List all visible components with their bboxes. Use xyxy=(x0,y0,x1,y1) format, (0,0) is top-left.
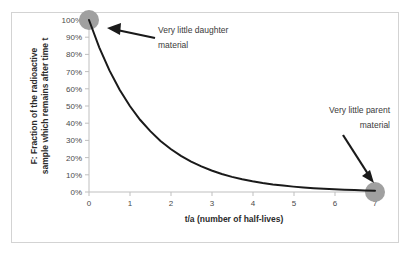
x-tick-label: 4 xyxy=(251,199,256,208)
parent-annotation-line2: material xyxy=(360,120,390,130)
parent-annotation-arrow xyxy=(343,135,374,183)
y-axis-tick-labels: 100% 90% 80% 70% 60% 50% 40% 30% 20% 10%… xyxy=(62,16,82,197)
x-axis-ticks xyxy=(89,192,375,196)
parent-annotation-text: Very little parent material xyxy=(329,105,391,130)
x-tick-label: 5 xyxy=(292,199,297,208)
daughter-annotation-line1: Very little daughter xyxy=(158,25,229,35)
y-tick-label: 80% xyxy=(66,50,82,59)
x-tick-label: 0 xyxy=(87,199,92,208)
y-tick-label: 100% xyxy=(62,16,82,25)
y-tick-label: 70% xyxy=(66,68,82,77)
daughter-annotation-text: Very little daughter material xyxy=(158,25,229,50)
y-tick-label: 10% xyxy=(66,171,82,180)
decay-chart: 100% 90% 80% 70% 60% 50% 40% 30% 20% 10%… xyxy=(0,0,411,257)
y-tick-label: 60% xyxy=(66,85,82,94)
y-tick-label: 0% xyxy=(70,188,82,197)
y-tick-label: 40% xyxy=(66,119,82,128)
y-tick-label: 20% xyxy=(66,154,82,163)
figure-container: 100% 90% 80% 70% 60% 50% 40% 30% 20% 10%… xyxy=(0,0,411,257)
x-tick-label: 1 xyxy=(128,199,133,208)
x-axis-tick-labels: 0 1 2 3 4 5 6 7 xyxy=(87,199,378,208)
y-tick-label: 90% xyxy=(66,33,82,42)
y-tick-label: 50% xyxy=(66,102,82,111)
x-tick-label: 2 xyxy=(169,199,174,208)
daughter-annotation-line2: material xyxy=(158,40,188,50)
y-axis-title: F: Fraction of the radioactive sample wh… xyxy=(29,38,50,175)
y-axis-ticks xyxy=(85,20,89,192)
x-tick-label: 6 xyxy=(333,199,338,208)
y-axis-title-line2: sample which remains after time t xyxy=(40,38,50,175)
y-axis-title-line1: F: Fraction of the radioactive xyxy=(29,47,39,164)
parent-annotation-line1: Very little parent xyxy=(329,105,391,115)
end-marker xyxy=(365,182,385,202)
x-tick-label: 3 xyxy=(210,199,215,208)
y-tick-label: 30% xyxy=(66,136,82,145)
x-axis-title: t/a (number of half-lives) xyxy=(185,214,284,224)
daughter-annotation-arrow xyxy=(107,23,155,38)
